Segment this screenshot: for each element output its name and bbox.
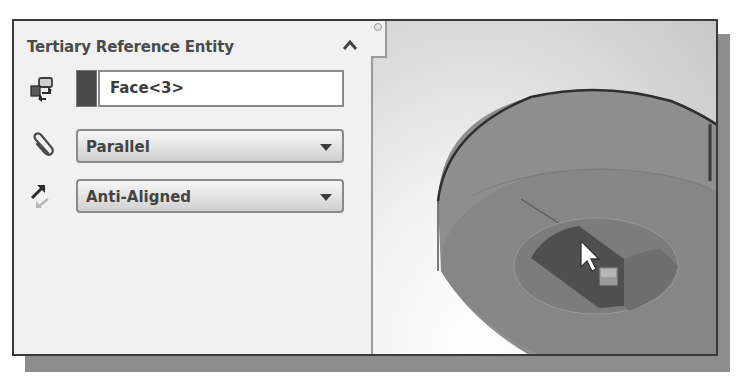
constraint-type-dropdown[interactable]: Parallel [76,129,344,163]
alignment-value: Anti-Aligned [86,188,191,206]
dropdown-arrow-icon [320,194,332,201]
reference-entity-icon [28,75,56,103]
screenshot-stage: Tertiary Reference Entity Face<3> [0,0,739,380]
chevron-up-icon [340,37,360,53]
graphics-viewport[interactable] [371,21,716,354]
dropdown-arrow-icon [320,144,332,151]
part-model[interactable] [371,21,716,354]
alignment-dropdown[interactable]: Anti-Aligned [76,179,344,213]
constraint-type-value: Parallel [86,138,150,156]
pin-icon[interactable] [374,23,382,31]
alignment-arrow-icon [28,181,56,209]
selection-color-swatch [76,70,97,107]
application-frame: Tertiary Reference Entity Face<3> [12,19,718,356]
section-title: Tertiary Reference Entity [27,38,234,56]
collapse-section-button[interactable] [340,37,360,53]
property-manager-panel: Tertiary Reference Entity Face<3> [14,21,373,354]
reference-selection-box[interactable]: Face<3> [98,70,344,107]
face-select-cursor-icon [579,239,619,291]
paperclip-icon [28,131,56,159]
